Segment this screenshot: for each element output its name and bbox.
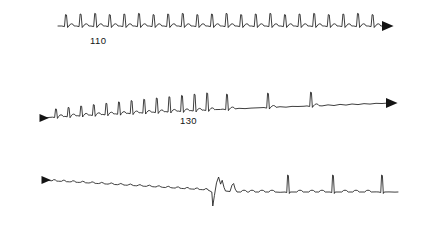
ecg-trace-line-1 xyxy=(58,13,388,27)
ecg-figure: 110 130 xyxy=(0,0,427,227)
ecg-canvas: 110 130 xyxy=(0,0,427,227)
left-arrowhead-icon-2 xyxy=(40,114,49,122)
ecg-trace-line-3 xyxy=(44,175,398,206)
strip-rate-label-1: 110 xyxy=(90,35,106,46)
ecg-strip-1: 110 xyxy=(58,13,394,46)
left-arrowhead-icon-3 xyxy=(42,176,51,184)
right-arrowhead-icon-2 xyxy=(386,98,398,108)
right-arrowhead-icon-1 xyxy=(382,21,394,31)
ecg-strip-3 xyxy=(42,175,399,206)
ecg-trace-line-2 xyxy=(42,92,392,118)
ecg-strip-2: 130 xyxy=(40,92,398,126)
strip-rate-label-2: 130 xyxy=(180,115,197,126)
